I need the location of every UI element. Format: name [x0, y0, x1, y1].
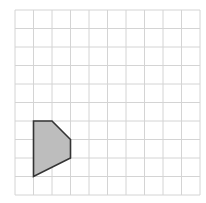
- grid-diagram: [0, 0, 206, 203]
